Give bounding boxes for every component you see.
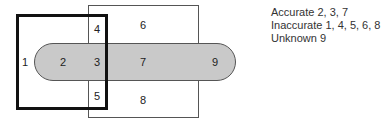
region-label-8: 8: [136, 94, 150, 106]
legend-accurate: Accurate 2, 3, 7: [271, 6, 380, 19]
legend-unknown: Unknown 9: [271, 32, 380, 45]
region-label-3: 3: [90, 56, 104, 68]
region-label-9: 9: [208, 56, 222, 68]
region-label-2: 2: [56, 56, 70, 68]
region-label-1: 1: [18, 56, 32, 68]
region-label-4: 4: [90, 23, 104, 35]
legend: Accurate 2, 3, 7 Inaccurate 1, 4, 5, 6, …: [271, 6, 380, 45]
region-label-6: 6: [136, 19, 150, 31]
legend-inaccurate: Inaccurate 1, 4, 5, 6, 8: [271, 19, 380, 32]
region-label-7: 7: [136, 56, 150, 68]
region-label-5: 5: [90, 90, 104, 102]
